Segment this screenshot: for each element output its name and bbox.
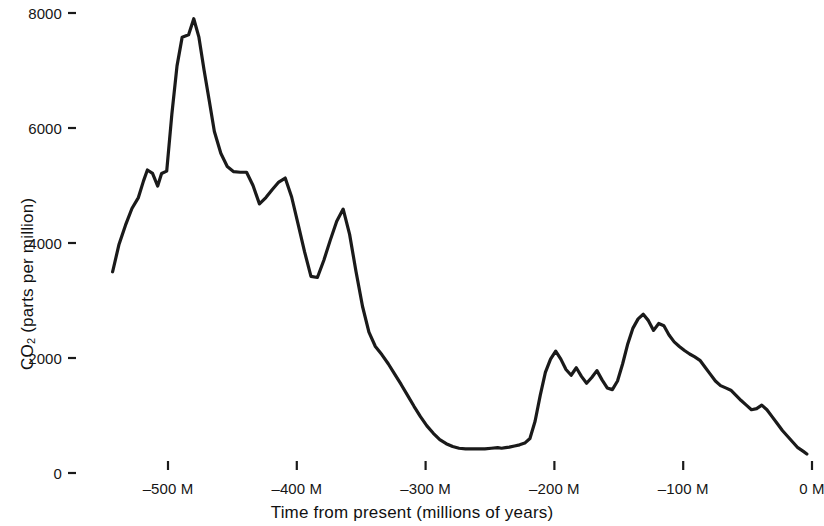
x-tick-label: –300 M (400, 480, 451, 497)
y-tick-label: 6000 (0, 120, 62, 137)
y-tick-label: 8000 (0, 5, 62, 22)
y-tick-label: 0 (0, 465, 62, 482)
x-tick-label: –100 M (658, 480, 709, 497)
co2-series-line (113, 19, 807, 454)
x-tick-label: –400 M (271, 480, 322, 497)
x-tick-label: –500 M (143, 480, 194, 497)
plot-area (0, 0, 824, 526)
y-axis-title: CO2 (parts per million) (18, 198, 38, 370)
x-axis-title: Time from present (millions of years) (0, 503, 824, 523)
x-tick-label: 0 M (799, 480, 824, 497)
y-axis-title-prefix: CO (18, 344, 37, 370)
x-tick-label: –200 M (529, 480, 580, 497)
co2-line-chart: 02000400060008000 –500 M–400 M–300 M–200… (0, 0, 824, 526)
y-axis-title-subscript: 2 (25, 338, 37, 344)
tick-marks (68, 13, 812, 473)
y-axis-title-suffix: (parts per million) (18, 198, 37, 338)
